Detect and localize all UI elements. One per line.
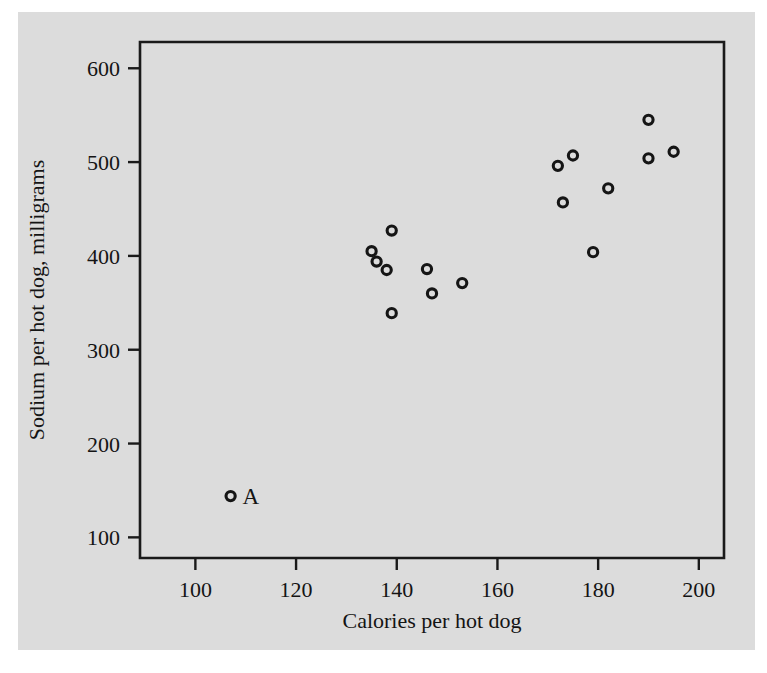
scatter-plot: 100120140160180200 100200300400500600 A … [0,0,767,673]
data-point-marker [372,257,381,266]
plot-frame [140,42,724,558]
y-tick-label: 300 [87,338,120,363]
y-tick-label: 200 [87,432,120,457]
x-tick-label: 200 [682,577,715,602]
data-point-marker [553,161,562,170]
data-point-marker [604,184,613,193]
x-tick-label: 160 [481,577,514,602]
x-axis-ticks: 100120140160180200 [179,558,715,602]
data-point-marker [589,248,598,257]
data-point-marker [669,147,678,156]
y-tick-label: 100 [87,525,120,550]
y-axis-title: Sodium per hot dog, milligrams [24,160,49,441]
data-point-marker [427,289,436,298]
data-point-marker [387,309,396,318]
data-point-marker [458,279,467,288]
x-tick-label: 140 [380,577,413,602]
y-tick-label: 400 [87,244,120,269]
data-point-marker [382,265,391,274]
x-tick-label: 120 [280,577,313,602]
x-axis-title: Calories per hot dog [342,608,521,633]
y-tick-label: 500 [87,150,120,175]
data-point-marker [422,264,431,273]
x-tick-label: 180 [582,577,615,602]
data-point-marker [644,115,653,124]
y-axis-ticks: 100200300400500600 [87,56,140,550]
y-tick-label: 600 [87,56,120,81]
data-point-marker [387,226,396,235]
plot-border [140,42,724,558]
data-point-marker [644,154,653,163]
data-point-marker [226,491,235,500]
data-point-marker [558,198,567,207]
data-points: A [226,115,678,509]
data-point-label: A [243,484,260,509]
data-point-marker [568,151,577,160]
data-point-marker [367,247,376,256]
x-tick-label: 100 [179,577,212,602]
